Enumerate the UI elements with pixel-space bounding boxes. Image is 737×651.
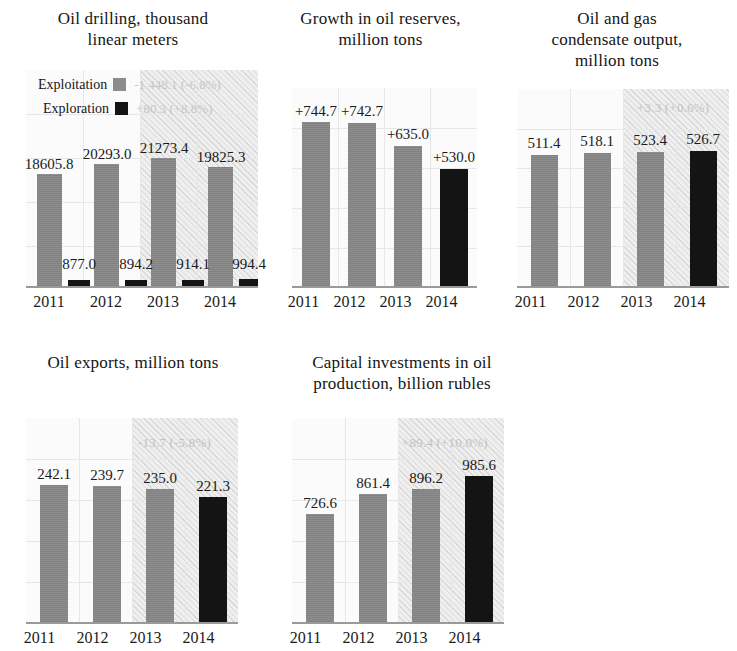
bar-exports-2013[interactable]: [146, 489, 174, 622]
bar-value-condensate-2013: 523.4: [620, 132, 680, 149]
chart-panel-oil-gas-condensate-output: Oil and gas condensate output, million t…: [503, 4, 731, 314]
bar-value-exports-2014: 221.3: [183, 478, 243, 495]
bar-reserves-2013[interactable]: [394, 146, 422, 286]
bar-value-exports-2013: 235.0: [130, 470, 190, 487]
delta-annotation-exports: -13.7 (-5.8%): [138, 435, 211, 451]
chart-title-line-1: Oil exports, million tons: [8, 352, 258, 373]
chart-title-capital-investments: Capital investments in oil production, b…: [272, 352, 532, 394]
x-tick-2014: 2014: [664, 292, 715, 311]
gridline-horizontal: [517, 129, 729, 130]
chart-panel-oil-drilling: Oil drilling, thousand linear meters Exp…: [8, 4, 258, 314]
x-tick-2011: 2011: [278, 292, 329, 311]
x-tick-2011: 2011: [14, 628, 65, 647]
bar-investments-2013[interactable]: [412, 489, 440, 622]
gridline-vertical: [398, 418, 399, 622]
bar-value-exports-2011: 242.1: [24, 466, 84, 483]
bar-value-exploitation-2014: 19825.3: [184, 149, 258, 166]
x-tick-2014: 2014: [416, 292, 467, 311]
bar-condensate-2011[interactable]: [531, 155, 558, 286]
bar-value-investments-2014: 985.6: [449, 457, 509, 474]
bar-value-condensate-2014: 526.7: [673, 131, 733, 148]
x-axis-line: [292, 622, 504, 624]
bar-value-exploration-2013: 914.1: [162, 256, 224, 273]
x-tick-2011: 2011: [505, 292, 556, 311]
gridline-vertical: [570, 89, 571, 286]
bar-value-exports-2012: 239.7: [77, 467, 137, 484]
x-tick-2012: 2012: [324, 292, 375, 311]
legend-delta-exploitation: -1 448.1 (-6.8%): [134, 77, 221, 93]
plot-area-oil-exports: -13.7 (-5.8%) 242.1 239.7 235.0 221.3: [26, 418, 238, 622]
bar-value-investments-2013: 896.2: [396, 470, 456, 487]
chart-title-line-2: production, billion rubles: [272, 373, 532, 394]
gridline-vertical: [623, 89, 624, 286]
gridline-horizontal: [26, 459, 238, 460]
x-tick-2013: 2013: [120, 628, 171, 647]
bar-condensate-2013[interactable]: [637, 152, 664, 286]
plot-area-capital-investments: +89.4 (+10.0%) 726.6 861.4 896.2 985.6: [292, 418, 504, 622]
chart-title-oil-drilling: Oil drilling, thousand linear meters: [8, 8, 258, 50]
bar-reserves-2012[interactable]: [348, 123, 376, 286]
bar-condensate-2014[interactable]: [690, 151, 717, 286]
delta-annotation-condensate: +3.3 (+0.6%): [637, 100, 709, 116]
bar-investments-2011[interactable]: [306, 514, 334, 622]
legend-row-exploitation[interactable]: Exploitation -1 448.1 (-6.8%): [38, 76, 221, 93]
bar-value-condensate-2012: 518.1: [567, 133, 627, 150]
chart-title-line-1: Growth in oil reserves,: [278, 8, 483, 29]
bar-value-investments-2012: 861.4: [343, 475, 403, 492]
x-tick-2014: 2014: [173, 628, 224, 647]
chart-title-oil-exports: Oil exports, million tons: [8, 352, 258, 373]
bar-exports-2012[interactable]: [93, 486, 121, 622]
legend-swatch-gray-icon: [113, 78, 126, 91]
gridline-vertical: [79, 418, 80, 622]
plot-area-oil-gas-condensate-output: +3.3 (+0.6%) 511.4 518.1 523.4 526.7: [517, 89, 729, 286]
bar-value-exploration-2014: 994.4: [218, 256, 280, 273]
bar-value-reserves-2012: +742.7: [329, 103, 395, 120]
x-tick-2012: 2012: [79, 292, 133, 311]
bar-value-exploration-2012: 894.2: [105, 256, 167, 273]
gridline-vertical: [676, 89, 677, 286]
x-tick-2014: 2014: [193, 292, 247, 311]
x-tick-2013: 2013: [136, 292, 190, 311]
chart-title-line-1: Oil drilling, thousand: [8, 8, 258, 29]
delta-annotation-capital-investments: +89.4 (+10.0%): [402, 435, 488, 451]
plot-area-oil-drilling: Exploitation -1 448.1 (-6.8%) Exploratio…: [26, 70, 258, 286]
x-axis-line: [26, 622, 238, 624]
gridline-vertical: [430, 88, 431, 286]
x-tick-2011: 2011: [22, 292, 76, 311]
chart-panel-oil-reserves-growth: Growth in oil reserves, million tons +74…: [278, 4, 483, 314]
legend-row-exploration[interactable]: Exploration +80.3 (+8.8%): [43, 100, 213, 117]
x-tick-2013: 2013: [611, 292, 662, 311]
plot-area-oil-reserves-growth: +744.7 +742.7 +635.0 +530.0: [292, 88, 477, 286]
bar-value-reserves-2013: +635.0: [375, 126, 441, 143]
x-tick-2013: 2013: [386, 628, 437, 647]
chart-panel-oil-exports: Oil exports, million tons -13.7 (-5.8%) …: [8, 348, 258, 648]
x-tick-2012: 2012: [333, 628, 384, 647]
chart-title-line-1: Oil and gas: [503, 8, 731, 29]
bar-reserves-2011[interactable]: [302, 122, 330, 286]
chart-title-line-2: condensate output,: [503, 29, 731, 50]
bar-investments-2014[interactable]: [465, 476, 493, 622]
bar-value-reserves-2014: +530.0: [421, 149, 487, 166]
bar-value-exploration-2011: 877.0: [48, 256, 110, 273]
legend-oil-drilling: Exploitation -1 448.1 (-6.8%) Exploratio…: [26, 72, 258, 124]
gridline-vertical: [345, 418, 346, 622]
bar-condensate-2012[interactable]: [584, 153, 611, 286]
x-axis-line: [517, 286, 729, 288]
bar-value-condensate-2011: 511.4: [514, 135, 574, 152]
x-tick-2012: 2012: [558, 292, 609, 311]
gridline-vertical: [132, 418, 133, 622]
bar-investments-2012[interactable]: [359, 494, 387, 622]
legend-label-exploration: Exploration: [43, 100, 109, 117]
chart-title-line-2: million tons: [278, 29, 483, 50]
chart-title-line-3: million tons: [503, 50, 731, 71]
bar-exports-2014[interactable]: [199, 497, 227, 622]
bar-exports-2011[interactable]: [40, 485, 68, 622]
bar-reserves-2014[interactable]: [440, 169, 468, 286]
legend-swatch-black-icon: [115, 102, 128, 115]
x-axis-line: [292, 286, 477, 288]
x-tick-2012: 2012: [67, 628, 118, 647]
chart-title-line-1: Capital investments in oil: [272, 352, 532, 373]
bar-exploration-2014[interactable]: [239, 279, 258, 286]
legend-label-exploitation: Exploitation: [38, 76, 107, 93]
bar-value-investments-2011: 726.6: [290, 495, 350, 512]
